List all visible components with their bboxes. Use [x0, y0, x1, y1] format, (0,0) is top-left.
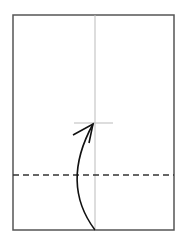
- fold-diagram: [0, 0, 186, 247]
